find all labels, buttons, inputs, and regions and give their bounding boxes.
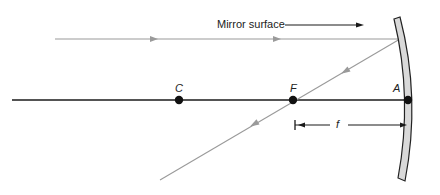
point-f xyxy=(289,96,297,104)
label-c: C xyxy=(175,83,183,94)
label-focal-length: f xyxy=(336,119,339,130)
incident-ray-arrow-1 xyxy=(150,36,158,42)
incident-ray-arrow-2 xyxy=(273,36,281,42)
point-c xyxy=(175,96,183,104)
label-f: F xyxy=(290,83,297,94)
reflected-ray-arrow-1 xyxy=(341,66,351,73)
reflected-ray xyxy=(160,39,400,180)
mirror-label-arrowhead xyxy=(356,23,364,28)
point-a xyxy=(404,96,412,104)
mirror-surface-label: Mirror surface xyxy=(217,19,285,30)
reflected-ray-arrow-2 xyxy=(250,119,260,126)
label-a: A xyxy=(393,83,400,94)
focal-length-arrow-left xyxy=(298,123,305,128)
